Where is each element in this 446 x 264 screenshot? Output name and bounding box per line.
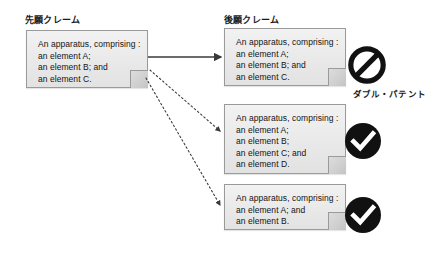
later-claim-box-1: An apparatus, comprising : an element A;… — [224, 28, 346, 86]
later-claim-text-1: An apparatus, comprising : an element A;… — [236, 37, 339, 83]
double-patent-label: ダブル・パテント — [353, 87, 426, 99]
prior-claim-column-heading: 先願クレーム — [25, 13, 80, 26]
check-icon — [344, 122, 382, 160]
later-claim-box-3: An apparatus, comprising : an element A;… — [224, 184, 346, 230]
later-claim-text-3: An apparatus, comprising : an element A;… — [236, 193, 339, 228]
later-claim-box-2: An apparatus, comprising : an element A;… — [224, 104, 346, 174]
check-icon — [344, 196, 382, 234]
connector-dotted-3 — [146, 78, 220, 205]
prior-claim-text: An apparatus, comprising : an element A;… — [38, 39, 141, 85]
folded-corner-icon — [328, 68, 346, 86]
later-claim-text-2: An apparatus, comprising : an element A;… — [236, 113, 339, 171]
later-claim-column-heading: 後願クレーム — [224, 13, 279, 26]
folded-corner-icon — [130, 70, 148, 88]
double-patenting-diagram: 先願クレーム 後願クレーム An apparatus, comprising :… — [0, 0, 446, 264]
prohibition-icon — [348, 46, 386, 84]
prior-claim-box: An apparatus, comprising : an element A;… — [26, 30, 148, 88]
connector-dotted-2 — [150, 70, 220, 131]
